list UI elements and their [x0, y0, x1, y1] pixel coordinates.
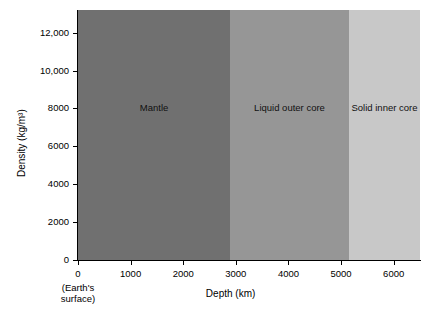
x-axis-line: [77, 260, 421, 261]
region-band-solid-inner-core: [349, 10, 420, 260]
x-tick: [183, 260, 184, 265]
origin-annotation-line2: surface): [48, 293, 108, 304]
y-axis-line: [77, 10, 78, 261]
x-tick: [341, 260, 342, 265]
region-label-liquid-outer-core: Liquid outer core: [230, 102, 349, 113]
origin-annotation-line1: (Earth's: [48, 282, 108, 293]
x-tick-label: 3000: [206, 268, 266, 279]
region-band-mantle: [78, 10, 230, 260]
x-tick-label: 6000: [364, 268, 424, 279]
x-tick-label: 0: [48, 268, 108, 279]
region-band-liquid-outer-core: [230, 10, 349, 260]
origin-annotation: (Earth's surface): [48, 282, 108, 304]
x-tick: [288, 260, 289, 265]
y-tick: [73, 71, 78, 72]
density-depth-chart: Mantle Liquid outer core Solid inner cor…: [0, 0, 446, 315]
x-axis-title: Depth (km): [206, 288, 255, 299]
y-tick-label: 6000: [0, 140, 69, 151]
y-tick-label: 2000: [0, 216, 69, 227]
y-tick: [73, 184, 78, 185]
x-tick-label: 5000: [311, 268, 371, 279]
region-label-solid-inner-core: Solid inner core: [349, 102, 420, 113]
y-tick-label: 8000: [0, 102, 69, 113]
y-axis-title: Density (kg/m³): [16, 109, 27, 177]
x-tick: [394, 260, 395, 265]
y-tick-label: 10,000: [0, 65, 69, 76]
y-tick-label: 12,000: [0, 27, 69, 38]
x-tick-label: 1000: [101, 268, 161, 279]
x-tick: [131, 260, 132, 265]
y-tick-label: 0: [0, 254, 69, 265]
plot-area: Mantle Liquid outer core Solid inner cor…: [78, 10, 420, 260]
x-tick: [236, 260, 237, 265]
y-tick: [73, 108, 78, 109]
y-tick: [73, 146, 78, 147]
y-tick: [73, 33, 78, 34]
x-tick-label: 4000: [258, 268, 318, 279]
y-tick: [73, 222, 78, 223]
region-label-mantle: Mantle: [78, 102, 230, 113]
y-tick-label: 4000: [0, 178, 69, 189]
x-tick-label: 2000: [153, 268, 213, 279]
x-tick: [78, 260, 79, 265]
